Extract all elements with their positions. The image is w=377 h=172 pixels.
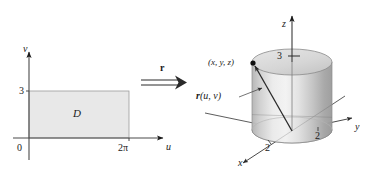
v-axis-label: v xyxy=(23,44,27,54)
u-tick-label-2pi: 2π xyxy=(118,143,128,153)
y-tick-label-2: 2 xyxy=(315,131,320,141)
map-arrow-group xyxy=(141,76,187,90)
u-axis-label: u xyxy=(166,142,171,152)
surface-point-label: (x, y, z) xyxy=(208,58,234,67)
xyz-space-group xyxy=(205,16,352,163)
v-tick-label-3: 3 xyxy=(19,86,24,96)
domain-label-D: D xyxy=(73,108,81,119)
map-arrow-label-r: r xyxy=(160,63,164,73)
figure-vector-graphics xyxy=(0,0,377,172)
position-vector-label: r(u, v) xyxy=(196,91,221,101)
figure-parametric-surface: v u 0 3 2π D r z y x 3 2 2 (x, y, z) r(u… xyxy=(0,0,377,172)
z-tick-label-3: 3 xyxy=(277,51,282,61)
uv-plane-group xyxy=(13,52,163,160)
position-vector-label-args: (u, v) xyxy=(200,90,221,101)
y-axis-label: y xyxy=(355,122,359,132)
surface-point-marker xyxy=(250,60,255,65)
x-axis-label: x xyxy=(238,158,242,168)
map-arrow-head xyxy=(175,76,187,90)
z-axis-label: z xyxy=(282,19,286,29)
x-tick-label-2: 2 xyxy=(265,143,270,153)
origin-label: 0 xyxy=(17,143,22,153)
